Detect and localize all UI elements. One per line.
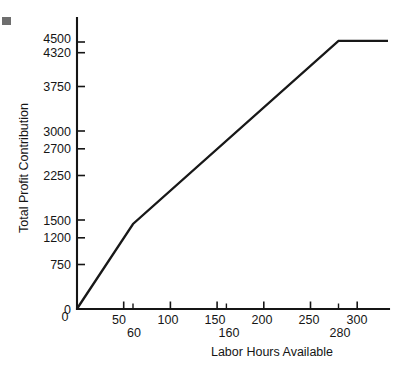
y-tick-label-4500: 4500 (43, 32, 71, 46)
x-tick-label-300: 300 (347, 313, 368, 327)
y-tick-label-3750: 3750 (43, 80, 71, 94)
chart-container: 0 750 1200 1500 2250 2700 3000 3750 4320… (0, 0, 402, 372)
x-tick-label-280: 280 (330, 326, 351, 340)
y-tick-label-750: 750 (50, 258, 71, 272)
x-axis-ticks-major (124, 302, 358, 310)
y-axis-title: Total Profit Contribution (17, 103, 31, 233)
x-axis-title: Labor Hours Available (211, 345, 333, 359)
y-tick-label-4320: 4320 (43, 46, 71, 60)
y-tick-label-1200: 1200 (43, 231, 71, 245)
x-tick-label-0: 0 (62, 310, 69, 324)
profit-contribution-line (78, 41, 389, 308)
y-tick-label-1500: 1500 (43, 214, 71, 228)
x-tick-label-200: 200 (252, 313, 273, 327)
y-tick-label-2250: 2250 (43, 169, 71, 183)
line-chart: 0 750 1200 1500 2250 2700 3000 3750 4320… (0, 0, 402, 372)
x-tick-label-60: 60 (127, 326, 141, 340)
x-tick-label-50: 50 (112, 313, 126, 327)
x-tick-label-100: 100 (158, 313, 179, 327)
x-tick-label-160: 160 (219, 326, 240, 340)
y-tick-label-2700: 2700 (43, 142, 71, 156)
x-tick-label-150: 150 (205, 313, 226, 327)
x-tick-label-250: 250 (299, 313, 320, 327)
y-axis-ticks (77, 42, 85, 309)
y-tick-label-3000: 3000 (43, 125, 71, 139)
